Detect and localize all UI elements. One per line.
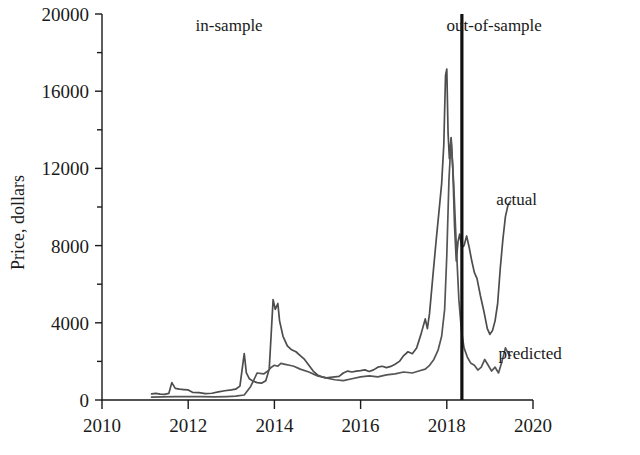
y-tick-label: 12000 — [42, 158, 90, 179]
x-tick-label: 2018 — [428, 415, 466, 436]
x-axis-tick-labels: 201020122014201620182020 — [83, 415, 552, 436]
y-tick-label: 20000 — [42, 4, 90, 25]
y-axis-tick-labels: 040008000120001600020000 — [42, 4, 90, 411]
x-tick-label: 2020 — [514, 415, 552, 436]
annotation-out-of-sample: out-of-sample — [447, 16, 542, 35]
chart-annotations: in-sampleout-of-sample — [196, 16, 542, 35]
y-axis-title: Price, dollars — [8, 175, 28, 270]
x-tick-label: 2014 — [255, 415, 294, 436]
y-tick-label: 0 — [80, 390, 90, 411]
series-label-actual: actual — [496, 190, 537, 209]
chart-figure: 201020122014201620182020 040008000120001… — [0, 0, 640, 455]
x-tick-label: 2012 — [169, 415, 207, 436]
axes-group — [95, 14, 533, 409]
series-line-actual — [152, 69, 511, 394]
annotation-in-sample: in-sample — [196, 16, 263, 35]
series-line-predicted — [152, 139, 511, 397]
y-tick-label: 8000 — [51, 236, 89, 257]
y-tick-label: 4000 — [51, 313, 89, 334]
x-tick-label: 2016 — [342, 415, 380, 436]
tick-marks — [95, 14, 533, 409]
y-tick-label: 16000 — [42, 81, 90, 102]
chart-svg: 201020122014201620182020 040008000120001… — [0, 0, 640, 455]
axis-lines — [102, 14, 533, 400]
x-tick-label: 2010 — [83, 415, 121, 436]
series-label-predicted: predicted — [499, 344, 563, 363]
series-paths — [152, 69, 511, 397]
